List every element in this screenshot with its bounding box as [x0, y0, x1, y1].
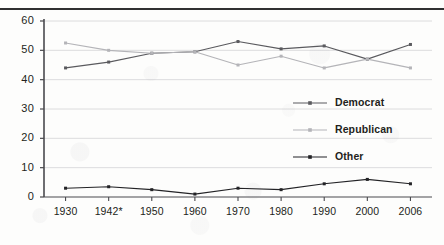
data-point-marker [323, 66, 326, 69]
data-point-marker [237, 187, 240, 190]
y-axis-tick-label: 0 [6, 190, 34, 202]
y-axis-tick-label: 60 [6, 14, 34, 26]
header-rule [0, 8, 444, 10]
data-point-marker [193, 193, 196, 196]
legend-swatch-marker [308, 155, 312, 159]
line-chart: 010203040506019301942*195019601970198019… [0, 0, 444, 245]
data-point-marker [64, 187, 67, 190]
data-point-marker [280, 47, 283, 50]
data-point-marker [193, 50, 196, 53]
data-point-marker [366, 178, 369, 181]
data-point-marker [323, 44, 326, 47]
legend-swatch-marker [308, 128, 312, 132]
y-axis-tick-label: 50 [6, 43, 34, 55]
x-axis-tick-label: 2006 [383, 205, 437, 217]
data-point-marker [323, 182, 326, 185]
data-point-marker [409, 43, 412, 46]
data-point-marker [237, 64, 240, 67]
data-point-marker [107, 185, 110, 188]
y-axis-tick-label: 40 [6, 73, 34, 85]
data-point-marker [280, 188, 283, 191]
data-point-marker [64, 66, 67, 69]
legend-label-democrat: Democrat [335, 96, 384, 108]
y-axis-tick-label: 20 [6, 131, 34, 143]
data-point-marker [107, 61, 110, 64]
y-axis-tick-label: 10 [6, 161, 34, 173]
data-point-marker [366, 58, 369, 61]
data-point-marker [150, 52, 153, 55]
y-axis-tick-label: 30 [6, 102, 34, 114]
data-point-marker [107, 49, 110, 52]
data-point-marker [64, 42, 67, 45]
data-point-marker [280, 55, 283, 58]
legend-label-republican: Republican [335, 123, 393, 135]
data-point-marker [150, 188, 153, 191]
data-point-marker [409, 182, 412, 185]
legend-label-other: Other [335, 150, 364, 162]
data-point-marker [237, 40, 240, 43]
legend-swatch-marker [308, 101, 312, 105]
data-point-marker [409, 66, 412, 69]
